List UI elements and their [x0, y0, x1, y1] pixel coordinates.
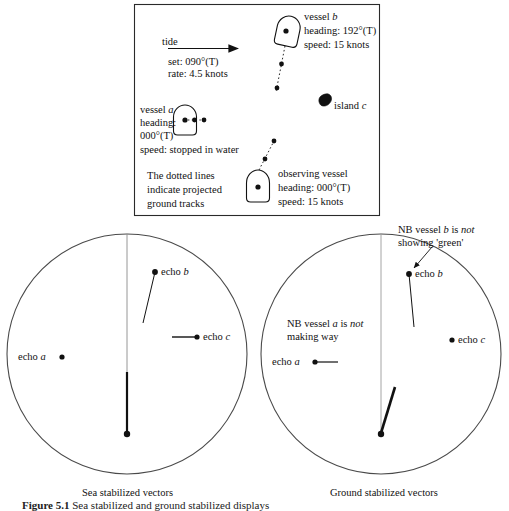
left-echo-c-dot [194, 334, 199, 339]
observing-vessel-name: observing vessel [278, 168, 348, 181]
vessel-a-position-dot [182, 117, 187, 122]
right-echo-c-label-italic: c [480, 334, 485, 345]
vessel-b-position-dot [283, 28, 288, 33]
right-note-b-italic-not: not [461, 224, 474, 235]
vessel-b-name: vessel b [304, 11, 338, 24]
left-echo-a-label: echo a [18, 351, 46, 364]
left-echo-a-dot [59, 354, 64, 359]
island-c-label: island c [334, 100, 366, 113]
left-display-title: Sea stabilized vectors [82, 487, 173, 498]
observing-vessel-track-dot-1 [263, 157, 268, 162]
left-echo-b-label-text: echo [161, 266, 183, 277]
vessel-a-heading-line1: heading: [140, 117, 176, 130]
vessel-b-name-italic: b [332, 11, 337, 22]
vessel-b-track-dot-2 [275, 86, 280, 91]
right-echo-c-dot [449, 337, 454, 342]
left-echo-c-label-italic: c [225, 331, 230, 342]
left-echo-c-label-text: echo [203, 331, 225, 342]
vessel-a-name: vessel a [140, 104, 174, 117]
right-echo-a-label-italic: a [294, 356, 299, 367]
figure-caption-text: Sea stabilized and ground stabilized dis… [72, 499, 269, 511]
observing-vessel-track-dot-2 [272, 139, 277, 144]
right-note-a-pre: NB vessel [287, 318, 333, 329]
right-echo-a-label-text: echo [272, 356, 294, 367]
right-note-a-mid: is [338, 318, 350, 329]
tide-rate-label: rate: 4.5 knots [168, 68, 228, 81]
vessel-a-heading-line2: 000°(T) [140, 130, 173, 143]
right-note-a-line2: making way [287, 331, 339, 344]
observing-vessel-speed: speed: 15 knots [278, 196, 343, 209]
figure-caption-label: Figure 5.1 [22, 499, 69, 511]
right-echo-b-label: echo b [415, 268, 443, 281]
vessel-a-name-italic: a [168, 104, 173, 115]
vessel-b-heading: heading: 192°(T) [304, 25, 376, 38]
right-note-b-pre: NB vessel [398, 224, 444, 235]
vessel-a-name-text: vessel [140, 104, 168, 115]
right-note-b-mid: is [449, 224, 461, 235]
right-echo-b-label-italic: b [437, 268, 442, 279]
left-echo-b-label: echo b [161, 266, 189, 279]
right-note-b-line1: NB vessel b is not [398, 224, 474, 237]
right-note-a-line1: NB vessel a is not [287, 318, 363, 331]
tide-label: tide [162, 36, 178, 49]
right-own-ship-dot [378, 431, 384, 437]
observing-vessel-heading: heading: 000°(T) [278, 182, 350, 195]
right-note-a-italic-not: not [350, 318, 363, 329]
right-echo-c-label: echo c [458, 334, 485, 347]
vessel-b-name-text: vessel [304, 11, 332, 22]
vessel-b-speed: speed: 15 knots [304, 39, 369, 52]
tide-set-label: set: 090°(T) [168, 56, 219, 69]
right-note-b-line2: showing 'green' [398, 237, 463, 250]
left-echo-a-label-italic: a [40, 351, 45, 362]
left-own-ship-dot [124, 431, 130, 437]
right-echo-a-label: echo a [272, 356, 300, 369]
vessel-a-speed: speed: stopped in water [140, 144, 239, 157]
left-echo-b-label-italic: b [183, 266, 188, 277]
observing-vessel-position-dot [255, 184, 260, 189]
left-echo-c-label: echo c [203, 331, 230, 344]
figure-caption: Figure 5.1 Sea stabilized and ground sta… [22, 499, 269, 511]
right-echo-b-label-text: echo [415, 268, 437, 279]
dotted-lines-note-line1: The dotted lines [147, 170, 215, 183]
right-echo-c-label-text: echo [458, 334, 480, 345]
left-echo-a-label-text: echo [18, 351, 40, 362]
dotted-lines-note-line2: indicate projected [147, 184, 222, 197]
island-c-label-text: island [334, 100, 362, 111]
vessel-b-track-dot-1 [279, 62, 284, 67]
dotted-lines-note-line3: ground tracks [147, 198, 204, 211]
right-display-title: Ground stabilized vectors [330, 487, 438, 498]
island-c-label-italic: c [362, 100, 367, 111]
